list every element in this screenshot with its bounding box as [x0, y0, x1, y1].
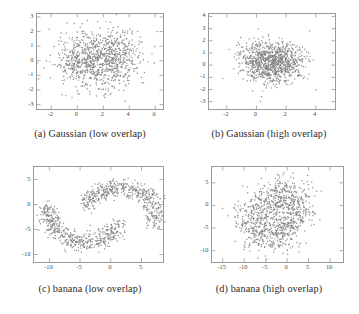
xtick-label: 4: [127, 111, 130, 117]
ytick-label: 0: [27, 200, 30, 206]
xtick-label: 10: [326, 264, 332, 270]
xtick-label: 0: [285, 264, 288, 270]
ytick-label: 0: [202, 61, 205, 67]
xtick-label: 0: [254, 111, 257, 117]
xtick-label: 6: [153, 111, 156, 117]
ytick-label: -2: [28, 86, 33, 92]
caption-d: (d) banana (high overlap): [179, 283, 359, 294]
xtick-label: 5: [306, 264, 309, 270]
ytick-label: -3: [200, 97, 205, 103]
ytick-label: -3: [28, 100, 33, 106]
axis-ticks-d: [212, 167, 345, 264]
panel-d: -15-10-50510 -10-505 (d) banana (high ov…: [179, 156, 359, 314]
panel-a: -20246 -3-2-10123 (a) Gaussian (low over…: [0, 0, 180, 157]
axis-ticks-b: [209, 14, 337, 111]
xtick-label: -2: [223, 111, 228, 117]
caption-b: (b) Gaussian (high overlap): [179, 128, 359, 139]
ytick-label: 3: [30, 13, 33, 19]
ytick-label: 0: [205, 201, 208, 207]
figure-scatter-grid: -20246 -3-2-10123 (a) Gaussian (low over…: [0, 0, 359, 314]
axis-ticks-a: [37, 14, 165, 111]
plot-area-b: [208, 13, 336, 110]
caption-a: (a) Gaussian (low overlap): [0, 128, 180, 139]
ytick-label: 1: [30, 42, 33, 48]
plot-area-a: [36, 13, 164, 110]
xtick-label: 4: [313, 111, 316, 117]
xtick-label: 2: [101, 111, 104, 117]
xtick-label: 0: [108, 264, 111, 270]
ytick-label: 5: [205, 179, 208, 185]
ytick-label: 2: [30, 27, 33, 33]
xtick-label: -15: [217, 264, 226, 270]
ytick-label: -10: [200, 246, 209, 252]
ytick-label: 4: [202, 12, 205, 18]
xtick-label: -5: [76, 264, 81, 270]
axis-ticks-c: [34, 167, 165, 264]
plot-area-d: [211, 166, 344, 263]
panel-b: -2024 -3-2-101234 (b) Gaussian (high ove…: [179, 0, 359, 157]
xtick-label: 5: [139, 264, 142, 270]
ytick-label: 5: [27, 175, 30, 181]
ytick-label: 3: [202, 24, 205, 30]
xtick-label: -10: [239, 264, 248, 270]
xtick-label: 2: [283, 111, 286, 117]
ytick-label: 2: [202, 37, 205, 43]
ytick-label: -1: [200, 73, 205, 79]
ytick-label: 1: [202, 49, 205, 55]
plot-area-c: [33, 166, 164, 263]
ytick-label: -5: [203, 224, 208, 230]
ytick-label: -2: [200, 85, 205, 91]
ytick-label: 0: [30, 57, 33, 63]
xtick-label: -5: [262, 264, 267, 270]
panel-c: -10-505 -10-505 (c) banana (low overlap): [0, 156, 180, 314]
xtick-label: 0: [75, 111, 78, 117]
caption-c: (c) banana (low overlap): [0, 283, 180, 294]
xtick-label: -2: [48, 111, 53, 117]
xtick-label: -10: [44, 264, 53, 270]
ytick-label: -1: [28, 71, 33, 77]
ytick-label: -10: [22, 250, 31, 256]
ytick-label: -5: [25, 225, 30, 231]
